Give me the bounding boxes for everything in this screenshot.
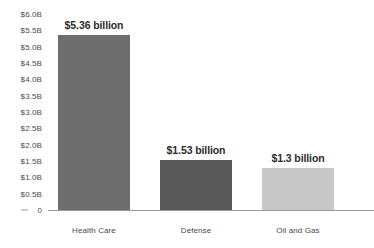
bar[interactable]: [58, 35, 130, 210]
y-axis-tick-label: $4.5B: [21, 59, 42, 68]
x-axis-category-label: Oil and Gas: [276, 226, 319, 235]
bar-group: $1.53 billion: [160, 160, 232, 210]
bar-value-label: $5.36 billion: [65, 19, 124, 31]
y-axis-tick-label: $3.5B: [21, 91, 42, 100]
y-axis-tick-label: $3.0B: [21, 108, 42, 117]
y-axis-tick-label: $4.0B: [21, 75, 42, 84]
bar-chart: $6.0B$5.5B$5.0B$4.5B$4.0B$3.5B$3.0B$2.5B…: [0, 0, 374, 248]
y-axis-tick-label: $1.0B: [21, 173, 42, 182]
plot-area: $5.36 billionHealth Care$1.53 billionDef…: [48, 0, 374, 248]
y-axis-tick-label: $2.0B: [21, 140, 42, 149]
y-axis-tick-label: $5.5B: [21, 26, 42, 35]
y-axis-tick-label: $5.0B: [21, 42, 42, 51]
bar-value-label: $1.3 billion: [271, 152, 324, 164]
y-axis-tick-label: $6.0B: [21, 10, 42, 19]
bar-group: $5.36 billion: [58, 35, 130, 210]
bar-value-label: $1.53 billion: [167, 144, 226, 156]
bar[interactable]: [160, 160, 232, 210]
y-axis-tick-label: $0.5B: [21, 189, 42, 198]
y-axis-tick-label: $1.5B: [21, 157, 42, 166]
x-axis-category-label: Defense: [181, 226, 212, 235]
zero-tick-dash: [21, 210, 28, 211]
y-axis: $6.0B$5.5B$5.0B$4.5B$4.0B$3.5B$3.0B$2.5B…: [0, 0, 50, 248]
y-axis-tick-label: $2.5B: [21, 124, 42, 133]
x-axis-category-label: Health Care: [72, 226, 116, 235]
bar[interactable]: [262, 168, 334, 210]
axis-baseline: [48, 210, 374, 211]
y-axis-tick-zero: 0: [37, 206, 42, 215]
bar-group: $1.3 billion: [262, 168, 334, 210]
